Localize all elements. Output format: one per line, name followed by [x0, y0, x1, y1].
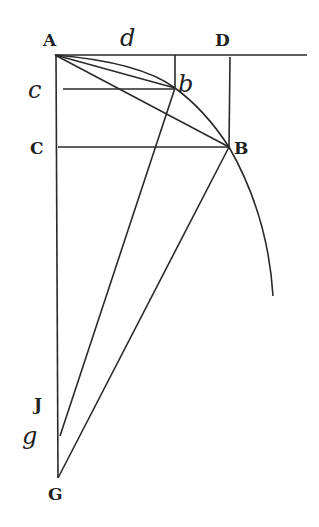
label-B: B — [234, 138, 248, 158]
geometry-diagram: A d D c b C B J g G — [0, 0, 319, 527]
label-d: d — [120, 24, 135, 52]
lines — [55, 55, 307, 478]
line-b-g — [60, 88, 175, 436]
label-G: G — [48, 484, 63, 504]
arc-curve — [55, 55, 273, 296]
chord-A-B — [55, 55, 229, 147]
label-J: J — [32, 394, 42, 414]
chord-A-b — [55, 55, 175, 88]
label-D: D — [215, 30, 230, 50]
label-g: g — [22, 422, 37, 450]
label-b: b — [178, 70, 193, 98]
vertical-D-B — [229, 57, 230, 147]
line-B-G — [58, 147, 229, 478]
axis-AG — [56, 55, 58, 478]
label-A: A — [42, 30, 57, 50]
label-C: C — [30, 138, 44, 158]
label-c: c — [28, 76, 41, 104]
